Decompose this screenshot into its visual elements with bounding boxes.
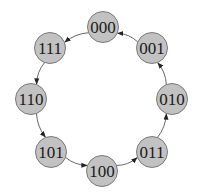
node-label: 111: [38, 39, 62, 58]
node-label: 110: [19, 90, 44, 109]
node-001: 001: [137, 33, 168, 64]
node-label: 101: [38, 143, 64, 162]
edge-010-to-001: [158, 63, 166, 85]
edge-000-to-111: [65, 33, 89, 42]
edge-100-to-011: [116, 158, 137, 166]
node-label: 011: [140, 143, 165, 162]
node-011: 011: [137, 137, 168, 168]
state-cycle-diagram: 000001010011100101110111: [0, 0, 198, 196]
node-000: 000: [88, 12, 119, 43]
node-label: 001: [139, 39, 165, 58]
edge-101-to-100: [66, 157, 87, 165]
node-label: 010: [159, 90, 185, 109]
node-101: 101: [36, 137, 67, 168]
node-100: 100: [87, 156, 118, 187]
edge-011-to-010: [157, 114, 166, 138]
node-label: 000: [90, 18, 116, 37]
edge-111-to-110: [37, 63, 45, 84]
node-010: 010: [157, 84, 188, 115]
nodes-group: 000001010011100101110111: [16, 12, 188, 187]
node-label: 100: [89, 162, 115, 181]
node-110: 110: [16, 84, 47, 115]
edge-110-to-101: [36, 114, 45, 138]
node-111: 111: [35, 33, 66, 64]
edge-001-to-000: [118, 33, 138, 42]
